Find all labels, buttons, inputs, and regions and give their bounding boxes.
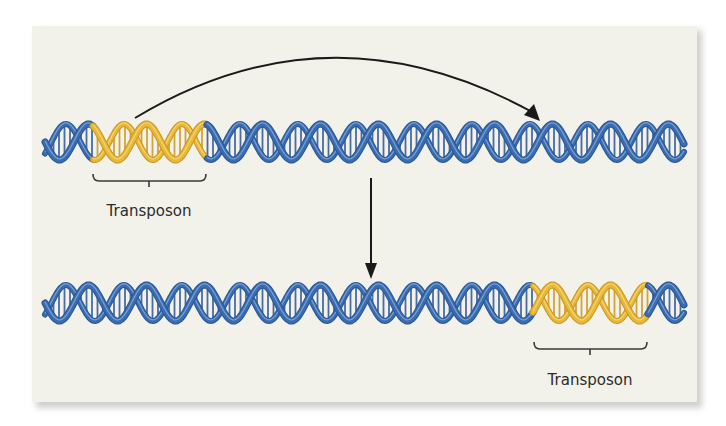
curved-arrow (135, 58, 534, 118)
diagram-canvas: Transposon Transposon (0, 0, 726, 426)
transposon-label-top: Transposon (106, 202, 192, 220)
transposon-label-bottom: Transposon (547, 371, 633, 389)
down-arrow-head-icon (365, 263, 377, 279)
curved-arrow-head-icon (524, 104, 540, 121)
diagram-stage: Transposon Transposon (0, 0, 726, 426)
transposon-bracket-bottom (534, 342, 647, 355)
dna-helix-bottom (45, 284, 684, 321)
dna-helix-top (45, 123, 684, 160)
transposon-bracket-top (93, 174, 206, 187)
